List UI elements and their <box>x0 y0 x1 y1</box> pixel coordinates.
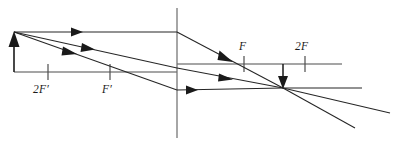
focal-ray-arrowhead-refracted <box>186 86 198 95</box>
label-f-prime: F′ <box>101 83 112 95</box>
parallel-ray-arrowhead-incident <box>71 28 83 37</box>
center-ray-refracted <box>177 68 283 88</box>
focal-ray-arrowhead-incident <box>62 47 78 56</box>
center-ray-extension <box>283 88 390 113</box>
focal-ray-incident <box>14 32 177 90</box>
label-f: F <box>238 40 247 52</box>
center-ray-arrowhead-refracted <box>218 74 233 82</box>
center-ray-incident <box>14 32 177 68</box>
ray-diagram-container: 2F′ F′ F 2F <box>0 0 393 145</box>
label-2f: 2F <box>295 40 309 52</box>
parallel-ray-extension <box>283 88 355 128</box>
optics-ray-diagram: 2F′ F′ F 2F <box>0 0 393 145</box>
label-2f-prime: 2F′ <box>33 83 49 95</box>
center-ray-arrowhead-incident <box>81 43 96 52</box>
parallel-ray-arrowhead-refracted <box>218 51 234 63</box>
